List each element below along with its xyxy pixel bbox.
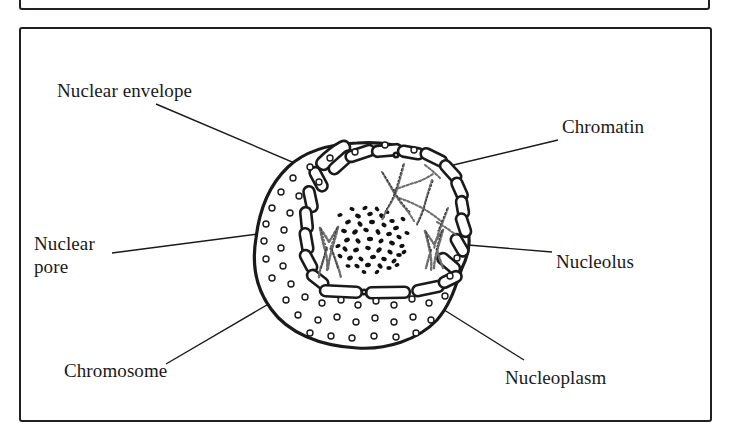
label-nucleolus: Nucleolus (556, 250, 634, 273)
figure-page: Nuclear envelope Chromatin Nuclear pore … (0, 0, 750, 444)
label-chromosome: Chromosome (64, 359, 167, 382)
label-nuclear-envelope: Nuclear envelope (57, 79, 192, 102)
label-nucleoplasm: Nucleoplasm (505, 366, 606, 389)
label-chromatin: Chromatin (562, 115, 644, 138)
label-nuclear-pore: Nuclear pore (34, 232, 95, 278)
